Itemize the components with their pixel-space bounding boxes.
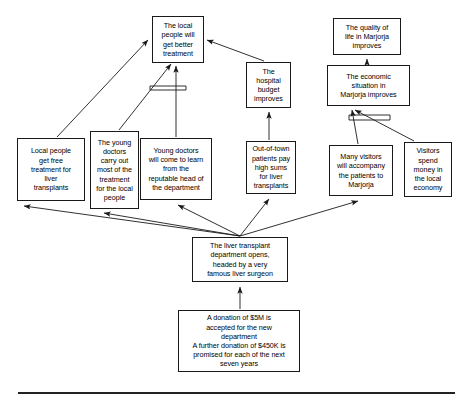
- node-visitors-spend-money[interactable]: Visitors spend money in the local econom…: [404, 142, 452, 197]
- node-label: A donation of $5M is accepted for the ne…: [181, 313, 297, 368]
- node-local-people-free-treatment[interactable]: Local people get free treatment for live…: [17, 138, 85, 201]
- arrow-visitors-spend-to-economic-situation: [355, 110, 414, 141]
- node-economic-situation-marjorja[interactable]: The economic situation in Marjorja impro…: [327, 65, 410, 106]
- arrow-hospital-budget-to-better-treatment: [207, 40, 264, 61]
- conjunction-marker-better-treatment: [150, 86, 186, 90]
- node-label: The quality of life in Marjorja improves: [336, 23, 398, 51]
- arrow-many-visitors-to-economic-situation: [352, 110, 358, 144]
- node-label: Local people get free treatment for live…: [20, 146, 82, 192]
- node-label: Young doctors will come to learn from th…: [143, 146, 209, 192]
- node-label: The young doctors carry out most of the …: [93, 138, 136, 202]
- node-young-doctors-carry-out[interactable]: The young doctors carry out most of the …: [90, 131, 139, 209]
- node-label: The economic situation in Marjorja impro…: [330, 72, 407, 100]
- arrow-young-doctors-carry-out-to-better-treatment: [119, 64, 171, 130]
- node-label: Visitors spend money in the local econom…: [407, 146, 449, 192]
- conjunction-marker-economic-situation: [349, 115, 390, 120]
- footer-rule: [18, 392, 455, 394]
- node-label: Out-of-town patients pay high sums for l…: [249, 144, 293, 190]
- node-label: The hospital budget improves: [249, 67, 288, 104]
- node-many-visitors-accompany[interactable]: Many visitors will accompany the patient…: [329, 145, 393, 196]
- arrow-department-to-out-of-town-patients: [240, 199, 269, 236]
- arrow-department-to-free-treatment: [24, 206, 240, 236]
- arrow-department-to-young-doctors-learn: [178, 205, 240, 236]
- arrow-department-to-many-visitors: [240, 201, 358, 236]
- node-label: The liver transplant department opens, h…: [195, 241, 285, 278]
- arrow-free-treatment-to-better-treatment: [57, 40, 148, 137]
- causal-map-canvas: The local people will get better treatme…: [0, 0, 473, 408]
- node-young-doctors-come-learn[interactable]: Young doctors will come to learn from th…: [140, 138, 212, 200]
- node-label: Many visitors will accompany the patient…: [332, 152, 390, 189]
- node-quality-of-life-marjorja[interactable]: The quality of life in Marjorja improves: [333, 18, 401, 55]
- node-liver-transplant-department-opens[interactable]: The liver transplant department opens, h…: [192, 237, 288, 282]
- arrow-department-to-young-doctors-carry-out: [104, 213, 240, 236]
- node-out-of-town-patients-pay[interactable]: Out-of-town patients pay high sums for l…: [246, 141, 296, 194]
- node-label: The local people will get better treatme…: [155, 21, 201, 58]
- node-local-people-better-treatment[interactable]: The local people will get better treatme…: [152, 16, 204, 63]
- node-hospital-budget-improves[interactable]: The hospital budget improves: [246, 62, 291, 108]
- node-donation-accepted[interactable]: A donation of $5M is accepted for the ne…: [178, 310, 300, 372]
